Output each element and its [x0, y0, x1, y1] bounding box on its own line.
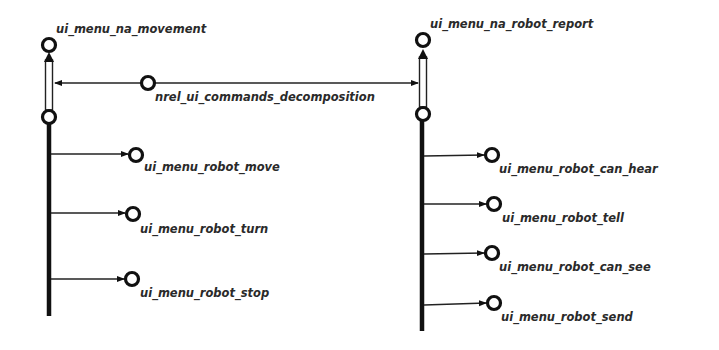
label-ui-menu-na-robot-report: ui_menu_na_robot_report: [430, 17, 594, 32]
node-ui-menu-robot-tell[interactable]: [488, 198, 501, 211]
relation-group: nrel_ui_commands_decomposition: [55, 77, 418, 106]
semantic-network-diagram: ui_menu_na_movement ui_menu_robot_move u…: [0, 0, 719, 350]
node-ui-menu-robot-stop[interactable]: [126, 273, 139, 286]
label-ui-menu-robot-stop: ui_menu_robot_stop: [140, 286, 269, 301]
node-nrel-ui-commands-decomposition[interactable]: [142, 77, 155, 90]
right-child-arrow-1: [424, 155, 484, 156]
label-ui-menu-robot-can-see: ui_menu_robot_can_see: [499, 260, 651, 275]
left-connector-arc: [46, 60, 53, 110]
label-ui-menu-robot-can-hear: ui_menu_robot_can_hear: [499, 162, 659, 177]
left-connector-arrowhead: [44, 52, 54, 62]
right-child-arrow-4: [424, 303, 486, 305]
node-ui-menu-na-movement[interactable]: [43, 39, 56, 52]
node-ui-menu-robot-send[interactable]: [488, 297, 501, 310]
label-ui-menu-robot-send: ui_menu_robot_send: [501, 310, 634, 325]
right-connector-arc: [420, 57, 427, 107]
right-connector-arrowhead: [418, 49, 428, 59]
label-ui-menu-robot-move: ui_menu_robot_move: [144, 160, 280, 175]
label-nrel-ui-commands-decomposition: nrel_ui_commands_decomposition: [155, 90, 375, 105]
node-ui-menu-robot-move[interactable]: [130, 149, 143, 162]
label-ui-menu-robot-turn: ui_menu_robot_turn: [140, 222, 268, 237]
node-right-decomposition[interactable]: [417, 108, 430, 121]
node-ui-menu-robot-turn[interactable]: [127, 208, 140, 221]
label-ui-menu-na-movement: ui_menu_na_movement: [56, 22, 207, 37]
right-group: ui_menu_na_robot_report ui_menu_robot_ca…: [417, 17, 659, 331]
left-group: ui_menu_na_movement ui_menu_robot_move u…: [43, 22, 281, 316]
right-child-arrow-3: [424, 253, 484, 254]
node-ui-menu-na-robot-report[interactable]: [417, 34, 430, 47]
label-ui-menu-robot-tell: ui_menu_robot_tell: [502, 211, 625, 226]
node-ui-menu-robot-can-see[interactable]: [486, 247, 499, 260]
node-left-decomposition[interactable]: [43, 111, 56, 124]
node-ui-menu-robot-can-hear[interactable]: [486, 149, 499, 162]
